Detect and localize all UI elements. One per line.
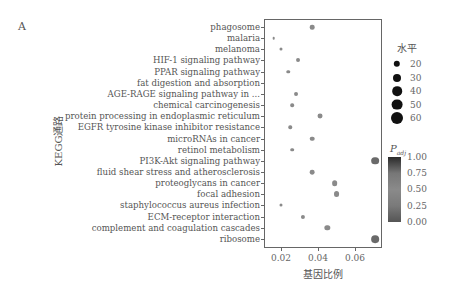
size-legend-label: 60 (410, 113, 421, 123)
y-axis-label: KEGG通路 (50, 116, 65, 167)
category-label: HIF-1 signaling pathway (153, 55, 260, 65)
color-legend-label: 1.00 (407, 152, 427, 162)
category-label: malaria (227, 33, 260, 43)
color-legend-title: Padj (390, 143, 406, 156)
plot-area (264, 19, 382, 248)
x-tick (318, 248, 319, 251)
category-label: PI3K-Akt signaling pathway (140, 156, 260, 166)
size-legend-dot (394, 61, 400, 67)
size-legend-label: 50 (410, 100, 421, 110)
category-label: melanoma (215, 44, 260, 54)
category-label: AGE-RAGE signaling pathway in ... (108, 89, 260, 99)
size-legend-label: 30 (410, 73, 421, 83)
data-point (334, 191, 340, 197)
category-label: fluid shear stress and atherosclerosis (97, 167, 260, 177)
size-legend-dot (391, 112, 403, 124)
size-legend-dot (392, 86, 402, 96)
x-tick-label: 0.02 (271, 253, 291, 263)
category-label: ECM-receptor interaction (148, 212, 260, 222)
data-point (294, 92, 298, 96)
color-legend-label: 0.25 (407, 201, 427, 211)
x-tick (355, 248, 356, 251)
data-point (310, 25, 315, 30)
size-legend-title: 水平 (397, 40, 417, 55)
size-legend-label: 20 (410, 59, 421, 69)
data-point (290, 148, 294, 152)
x-tick-label: 0.04 (308, 253, 328, 263)
color-legend-label: 0.50 (407, 184, 427, 194)
category-label: ribosome (220, 234, 260, 244)
color-bar (388, 157, 401, 222)
size-legend-dot (393, 74, 401, 82)
category-label: complement and coagulation cascades (92, 223, 260, 233)
category-label: EGFR tyrosine kinase inhibitor resistanc… (78, 122, 260, 132)
category-label: retinol metabolism (178, 145, 260, 155)
data-point (310, 136, 315, 141)
category-label: staphylococcus aureus infection (120, 200, 260, 210)
x-tick (281, 248, 282, 251)
data-point (332, 180, 338, 186)
size-legend-dot (392, 99, 403, 110)
category-label: phagosome (210, 22, 260, 32)
category-label: protein processing in endoplasmic reticu… (65, 111, 260, 121)
data-point (289, 126, 293, 130)
category-label: chemical carcinogenesis (153, 100, 260, 110)
data-point (372, 157, 380, 165)
category-label: proteoglycans in cancer (155, 178, 260, 188)
color-legend-label: 0.00 (407, 217, 427, 227)
category-label: microRNAs in cancer (167, 134, 260, 144)
data-point (310, 170, 315, 175)
size-legend-label: 40 (410, 86, 421, 96)
x-tick-label: 0.06 (345, 253, 365, 263)
data-point (287, 70, 291, 74)
data-point (372, 235, 380, 243)
category-label: fat digestion and absorption (137, 78, 260, 88)
panel-label: A (18, 20, 26, 33)
color-legend-label: 0.75 (407, 168, 427, 178)
data-point (317, 114, 322, 119)
data-point (296, 58, 300, 62)
category-label: PPAR signaling pathway (154, 67, 260, 77)
data-point (290, 103, 294, 107)
x-axis-label: 基因比例 (303, 266, 343, 281)
data-point (272, 37, 275, 40)
category-label: focal adhesion (197, 189, 260, 199)
